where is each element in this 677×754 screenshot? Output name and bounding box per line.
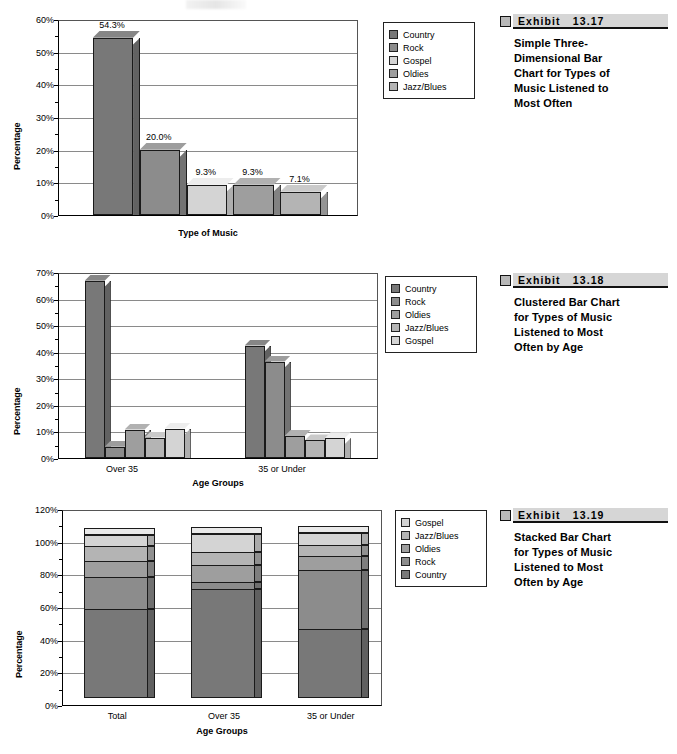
stacked-bar [84, 510, 148, 698]
y-tick-label: 30% [28, 113, 54, 123]
legend-item[interactable]: Jazz/Blues [389, 80, 467, 93]
stack-segment [191, 565, 255, 582]
stack-segment [191, 582, 255, 589]
exhibit-marker-icon [500, 275, 511, 286]
bar-front-face [285, 436, 305, 458]
stack-segment-side [148, 609, 155, 698]
exhibit-label: Exhibit [518, 509, 561, 521]
stack-segment [298, 556, 362, 570]
legend-swatch-icon [391, 310, 400, 319]
bar [233, 178, 273, 215]
bar [145, 432, 165, 458]
stack-segment [191, 552, 255, 565]
x-category-label: Over 35 [106, 464, 138, 474]
exhibit-title-text: Exhibit 13.19 [518, 509, 605, 521]
legend-item[interactable]: Rock [389, 41, 467, 54]
chart2-legend[interactable]: CountryRockOldiesJazz/BluesGospel [385, 276, 477, 353]
legend-item[interactable]: Rock [401, 555, 479, 568]
y-tick-label: 30% [28, 374, 54, 384]
legend-swatch-icon [401, 557, 410, 566]
gridline [59, 273, 377, 274]
legend-item[interactable]: Country [401, 568, 479, 581]
chart1-y-axis-label: Percentage [12, 122, 22, 170]
bar-front-face [305, 440, 325, 458]
y-tick-label: 60% [28, 15, 54, 25]
bar-top-face [233, 178, 280, 185]
stack-segment [84, 561, 148, 576]
stack-segment-side [362, 629, 369, 698]
legend-item[interactable]: Gospel [391, 334, 469, 347]
legend-item[interactable]: Gospel [401, 516, 479, 529]
stack-segment-side [255, 565, 262, 582]
stack-segment [298, 533, 362, 545]
legend-item[interactable]: Gospel [389, 54, 467, 67]
bar [125, 424, 145, 458]
bar-front-face [233, 185, 273, 215]
legend-swatch-icon [401, 518, 410, 527]
bar-value-label: 9.3% [242, 167, 263, 177]
stack-segment-side [255, 552, 262, 565]
bar-front-face [145, 438, 165, 458]
chart1-x-axis-label: Type of Music [58, 228, 358, 238]
legend-item-label: Jazz/Blues [405, 323, 449, 333]
y-tick-label: 20% [28, 146, 54, 156]
stack-segment-side [255, 534, 262, 552]
stack-segment-side [255, 589, 262, 698]
legend-item[interactable]: Jazz/Blues [391, 321, 469, 334]
bar-front-face [265, 362, 285, 458]
bar-front-face [165, 429, 185, 458]
stack-segment [298, 570, 362, 629]
legend-item[interactable]: Oldies [391, 308, 469, 321]
chart3-x-axis-label: Age Groups [62, 726, 382, 736]
bar [305, 434, 325, 458]
stack-top-face [298, 526, 369, 533]
legend-item[interactable]: Country [391, 282, 469, 295]
exhibit-header: Exhibit 13.18 [500, 273, 668, 288]
bar-top-face [140, 143, 187, 150]
stack-top-face [84, 528, 155, 535]
bar-top-face [187, 178, 234, 185]
legend-item[interactable]: Oldies [401, 542, 479, 555]
x-category-label: 35 or Under [258, 464, 306, 474]
legend-item[interactable]: Oldies [389, 67, 467, 80]
bar-side-face [345, 438, 351, 458]
x-category-label: 35 or Under [307, 711, 355, 721]
y-tick-label: 120% [32, 505, 58, 515]
y-tick-label: 100% [32, 538, 58, 548]
legend-item-label: Rock [415, 557, 436, 567]
legend-item-label: Rock [405, 297, 426, 307]
bar-side-face [321, 192, 328, 215]
legend-swatch-icon [391, 336, 400, 345]
stack-segment [84, 577, 148, 610]
bar-top-face [280, 185, 327, 192]
legend-item-label: Jazz/Blues [403, 82, 447, 92]
bar-front-face [280, 192, 320, 215]
bar-side-face [105, 281, 111, 458]
stack-segment [298, 545, 362, 556]
chart3-legend[interactable]: GospelJazz/BluesOldiesRockCountry [395, 510, 487, 587]
stack-segment [298, 629, 362, 698]
exhibit-number: 13.17 [573, 15, 605, 27]
exhibit-caption-line: Clustered Bar Chart [514, 295, 668, 310]
y-tick-label: 20% [28, 401, 54, 411]
legend-item[interactable]: Jazz/Blues [401, 529, 479, 542]
legend-swatch-icon [389, 69, 398, 78]
legend-item[interactable]: Rock [391, 295, 469, 308]
legend-swatch-icon [401, 544, 410, 553]
stack-segment [84, 535, 148, 547]
legend-swatch-icon [389, 30, 398, 39]
y-tick-label: 50% [28, 48, 54, 58]
y-tick-label: 60% [28, 295, 54, 305]
exhibit-number: 13.18 [573, 274, 605, 286]
legend-item-label: Gospel [405, 336, 434, 346]
bar-top-face [93, 31, 140, 38]
legend-item-label: Oldies [415, 544, 441, 554]
chart1-legend[interactable]: CountryRockGospelOldiesJazz/Blues [383, 22, 475, 99]
bar-front-face [93, 38, 133, 215]
legend-item[interactable]: Country [389, 28, 467, 41]
legend-item-label: Gospel [403, 56, 432, 66]
exhibit-marker-icon [500, 510, 511, 521]
exhibit-caption: Stacked Bar Chartfor Types of MusicListe… [514, 530, 668, 590]
stack-segment-side [148, 546, 155, 561]
y-tick-label: 0% [28, 454, 54, 464]
